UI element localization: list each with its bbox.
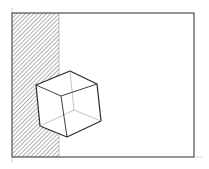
sketch-canvas — [0, 0, 209, 169]
sketch-svg — [0, 0, 209, 169]
cube-body — [36, 71, 101, 137]
